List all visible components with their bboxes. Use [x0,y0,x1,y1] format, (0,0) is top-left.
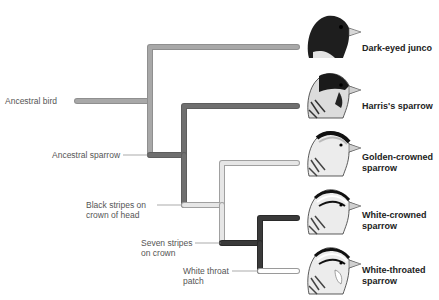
species-name: sparrow [362,276,426,287]
node-label-line: Black stripes on [86,200,146,210]
bird-golden-crowned-sparrow [308,132,361,176]
species-label-harris-sparrow: Harris's sparrow [362,101,433,112]
node-label-line: crown of head [86,210,146,220]
node-label-line: Seven stripes [141,238,193,248]
branch-black-stripes [184,163,297,243]
species-name: sparrow [362,163,433,174]
species-name: White-crowned [362,210,427,221]
bird-white-crowned-sparrow [308,190,361,234]
node-label-line: on crown [141,248,193,258]
species-label-dark-eyed-junco: Dark-eyed junco [362,43,432,54]
species-name: sparrow [362,221,427,232]
species-name: Golden-crowned [362,152,433,163]
species-name: Harris's sparrow [362,101,433,112]
node-label-line: patch [183,276,229,286]
species-label-golden-crowned-sparrow: Golden-crowned sparrow [362,152,433,174]
bird-dark-eyed-junco [308,16,361,58]
node-label-ancestral-sparrow: Ancestral sparrow [52,150,120,160]
bird-harris-sparrow [308,73,361,118]
branch-seven-stripes [222,218,297,271]
bird-white-throated-sparrow [308,248,361,294]
node-label-ancestral-bird: Ancestral bird [5,96,57,106]
node-label-seven-stripes: Seven stripes on crown [141,238,193,258]
species-name: White-throated [362,265,426,276]
node-label-black-stripes: Black stripes on crown of head [86,200,146,220]
species-label-white-throated-sparrow: White-throated sparrow [362,265,426,287]
species-label-white-crowned-sparrow: White-crowned sparrow [362,210,427,232]
species-name: Dark-eyed junco [362,43,432,54]
node-label-white-throat: White throat patch [183,266,229,286]
node-label-line: White throat [183,266,229,276]
